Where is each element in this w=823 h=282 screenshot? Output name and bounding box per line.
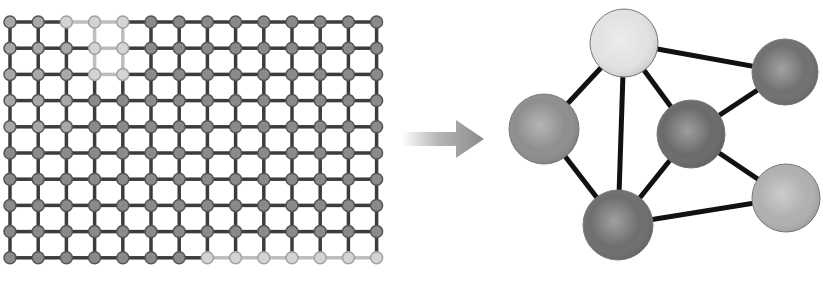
lattice-node <box>286 252 298 264</box>
lattice-node <box>201 173 213 185</box>
lattice-node <box>230 226 242 238</box>
lattice-node <box>89 95 101 107</box>
lattice-node <box>230 173 242 185</box>
lattice-node <box>4 68 16 80</box>
lattice-node <box>258 147 270 159</box>
lattice-node <box>32 16 44 28</box>
lattice-node <box>342 42 354 54</box>
lattice-node <box>371 68 383 80</box>
lattice-node <box>230 42 242 54</box>
lattice-node <box>4 199 16 211</box>
lattice-node <box>4 121 16 133</box>
lattice-node <box>117 68 129 80</box>
lattice-node <box>117 147 129 159</box>
lattice-node <box>145 199 157 211</box>
lattice-nodes <box>4 16 383 264</box>
lattice-node <box>145 147 157 159</box>
lattice-node <box>32 173 44 185</box>
lattice-node <box>145 121 157 133</box>
lattice-node <box>201 199 213 211</box>
lattice-node <box>342 147 354 159</box>
lattice-node <box>314 68 326 80</box>
lattice-node <box>371 147 383 159</box>
lattice-node <box>342 68 354 80</box>
lattice-node <box>258 121 270 133</box>
lattice-node <box>173 199 185 211</box>
lattice-node <box>342 199 354 211</box>
lattice-node <box>314 226 326 238</box>
lattice-node <box>32 226 44 238</box>
lattice-node <box>117 95 129 107</box>
lattice-node <box>258 173 270 185</box>
lattice-node <box>201 147 213 159</box>
lattice-node <box>4 42 16 54</box>
lattice-node <box>173 147 185 159</box>
lattice-node <box>230 147 242 159</box>
lattice-node <box>342 16 354 28</box>
lattice-node <box>89 121 101 133</box>
lattice-node <box>89 199 101 211</box>
lattice-node <box>342 173 354 185</box>
network-node-shading <box>583 190 653 260</box>
lattice-node <box>286 199 298 211</box>
lattice-node <box>60 121 72 133</box>
lattice-node <box>117 121 129 133</box>
lattice-node <box>173 16 185 28</box>
lattice-edges <box>10 22 377 258</box>
lattice-node <box>32 68 44 80</box>
network-node-shading <box>509 94 579 164</box>
lattice-node <box>145 173 157 185</box>
lattice-node <box>32 199 44 211</box>
lattice-node <box>314 199 326 211</box>
lattice-node <box>371 121 383 133</box>
lattice-node <box>286 147 298 159</box>
arrow-shape <box>402 120 484 158</box>
lattice-node <box>89 68 101 80</box>
lattice-node <box>173 252 185 264</box>
network-node-shading <box>752 164 820 232</box>
lattice-node <box>117 226 129 238</box>
lattice-node <box>258 252 270 264</box>
lattice-node <box>117 199 129 211</box>
lattice-node <box>371 252 383 264</box>
lattice-node <box>201 68 213 80</box>
lattice-node <box>230 199 242 211</box>
lattice-node <box>286 121 298 133</box>
lattice-node <box>89 226 101 238</box>
lattice-node <box>201 95 213 107</box>
lattice-node <box>60 16 72 28</box>
lattice-node <box>173 68 185 80</box>
lattice-node <box>173 42 185 54</box>
lattice-node <box>60 42 72 54</box>
network-graph <box>509 9 820 260</box>
network-node-shading <box>752 39 818 105</box>
lattice-node <box>60 147 72 159</box>
lattice-node <box>230 16 242 28</box>
lattice-node <box>145 42 157 54</box>
lattice-node <box>60 252 72 264</box>
lattice-node <box>286 68 298 80</box>
lattice-node <box>145 226 157 238</box>
lattice-node <box>117 252 129 264</box>
arrow-right-icon <box>402 120 484 158</box>
network-nodes <box>509 9 820 260</box>
lattice-node <box>201 16 213 28</box>
lattice-node <box>230 121 242 133</box>
lattice-node <box>117 16 129 28</box>
lattice-node <box>4 95 16 107</box>
lattice-node <box>60 95 72 107</box>
lattice-node <box>258 16 270 28</box>
lattice-node <box>371 16 383 28</box>
lattice-node <box>342 226 354 238</box>
square-lattice-graph <box>4 16 383 264</box>
lattice-node <box>371 95 383 107</box>
lattice-node <box>60 226 72 238</box>
lattice-node <box>314 16 326 28</box>
lattice-node <box>89 16 101 28</box>
lattice-node <box>258 95 270 107</box>
lattice-node <box>342 95 354 107</box>
lattice-node <box>342 121 354 133</box>
lattice-node <box>258 226 270 238</box>
lattice-node <box>145 68 157 80</box>
lattice-node <box>371 42 383 54</box>
